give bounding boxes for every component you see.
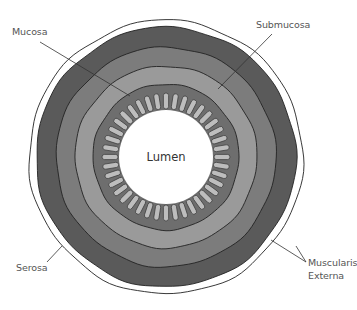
villus — [214, 154, 230, 159]
serosa-label: Serosa — [16, 262, 48, 274]
villus — [102, 154, 118, 159]
villus — [163, 205, 168, 221]
serosa-leader-line — [47, 246, 62, 262]
lumen-label: Lumen — [146, 150, 185, 164]
muscularis-leader-line-2 — [296, 246, 306, 262]
mucosa-label: Mucosa — [12, 26, 47, 38]
muscularis-externa-label-line1: Muscularis — [308, 257, 357, 269]
submucosa-label: Submucosa — [256, 19, 310, 31]
muscularis-leader-line-1 — [271, 240, 306, 262]
muscularis-externa-label-line2: Externa — [308, 270, 344, 282]
villus — [163, 93, 168, 109]
